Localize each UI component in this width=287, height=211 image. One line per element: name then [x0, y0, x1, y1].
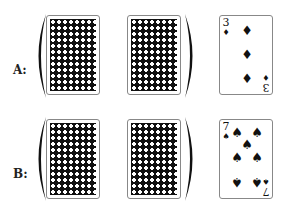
card-face-three-of-diamonds[interactable]: 3 ♦ ♦ ♦ ♦ 3 ♦	[219, 15, 273, 95]
row-label-b: B:	[13, 167, 28, 181]
row-label-a: A:	[13, 63, 27, 77]
spade-icon: ♠	[262, 176, 270, 186]
card-index-bottom: 7 ♠	[262, 176, 270, 196]
card-face-seven-of-spades[interactable]: 7 ♠ ♠ ♠ ♠ ♠ ♠ ♠ ♠ 7 ♠	[219, 119, 273, 199]
card-rank: 3	[263, 81, 270, 94]
card-index-top: 3 ♦	[222, 18, 230, 38]
card-back-a1[interactable]	[46, 15, 100, 95]
card-index-top: 7 ♠	[222, 122, 230, 142]
right-parenthesis-icon	[183, 115, 201, 203]
card-back-pattern	[131, 123, 177, 195]
card-index-bottom: 3 ♦	[262, 72, 270, 92]
card-rank: 7	[263, 185, 270, 198]
right-parenthesis-icon	[183, 12, 201, 100]
spade-icon: ♠	[230, 176, 244, 189]
card-back-pattern	[131, 19, 177, 91]
diamond-icon: ♦	[262, 72, 270, 82]
card-back-b1[interactable]	[46, 119, 100, 199]
diamond-icon: ♦	[222, 28, 230, 38]
diamond-icon: ♦	[240, 72, 254, 85]
spade-icon: ♠	[222, 132, 230, 142]
diamond-icon: ♦	[240, 48, 254, 61]
card-back-pattern	[50, 19, 96, 91]
diamond-icon: ♦	[240, 24, 254, 37]
spade-icon: ♠	[250, 151, 264, 164]
card-back-pattern	[50, 123, 96, 195]
card-back-a2[interactable]	[127, 15, 181, 95]
card-back-b2[interactable]	[127, 119, 181, 199]
spade-icon: ♠	[230, 151, 244, 164]
